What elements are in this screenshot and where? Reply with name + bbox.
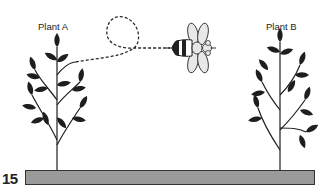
- diagram-canvas: [0, 0, 330, 192]
- bee-icon: [166, 22, 216, 74]
- plant-a-leaves: [22, 33, 90, 130]
- ground-bar: [25, 170, 315, 185]
- plant-a: [32, 47, 80, 172]
- plant-b: [258, 42, 306, 172]
- flight-path: [76, 17, 170, 62]
- plant-b-leaves: [248, 28, 320, 149]
